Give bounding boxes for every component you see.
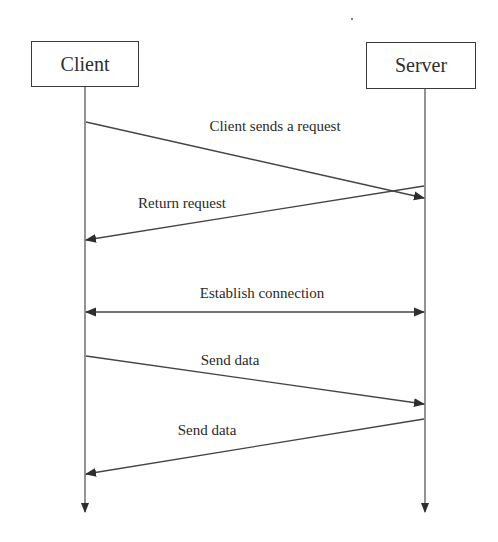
message-label-1: Client sends a request — [209, 118, 340, 135]
message-arrow-5 — [86, 419, 424, 474]
server-actor-box: Server — [366, 42, 476, 89]
server-actor-label: Server — [395, 54, 447, 77]
message-label-2: Return request — [138, 195, 226, 212]
sequence-diagram: Client Server Client sends a request Ret… — [0, 0, 498, 542]
message-arrow-2 — [86, 186, 424, 240]
message-label-5: Send data — [178, 422, 237, 439]
message-label-3: Establish connection — [200, 285, 325, 302]
client-actor-label: Client — [61, 53, 110, 76]
speck — [351, 18, 353, 20]
client-actor-box: Client — [31, 41, 139, 87]
message-label-4: Send data — [201, 352, 260, 369]
